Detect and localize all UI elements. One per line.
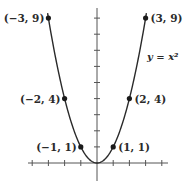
point-label: (2, 4) xyxy=(134,93,166,105)
point-label: (−2, 4) xyxy=(20,93,61,105)
data-point xyxy=(62,96,67,101)
data-point xyxy=(46,16,51,21)
parabola-chart: (−3, 9)(−2, 4)(−1, 1)(1, 1)(2, 4)(3, 9) … xyxy=(0,0,184,187)
point-label: (3, 9) xyxy=(151,12,183,24)
data-point xyxy=(143,16,148,21)
curve-label: y = x² xyxy=(146,51,179,62)
marked-points: (−3, 9)(−2, 4)(−1, 1)(1, 1)(2, 4)(3, 9) xyxy=(4,12,183,153)
data-point xyxy=(127,96,132,101)
data-point xyxy=(111,144,116,149)
point-label: (1, 1) xyxy=(118,141,150,153)
point-label: (−3, 9) xyxy=(4,12,45,24)
point-label: (−1, 1) xyxy=(36,141,77,153)
data-point xyxy=(78,144,83,149)
